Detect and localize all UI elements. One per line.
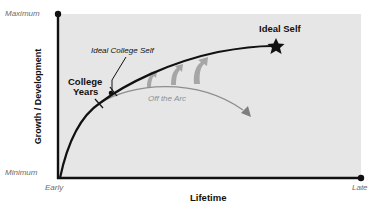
growth-diagram: Maximum Minimum Growth / Development Ear… <box>0 0 380 214</box>
x-axis-end-dot <box>358 175 364 181</box>
y-axis-end-dot <box>55 11 61 17</box>
y-max-label: Maximum <box>5 10 40 18</box>
diagram-canvas <box>0 0 380 214</box>
y-axis-title: Growth / Development <box>34 42 43 152</box>
ideal-self-label: Ideal Self <box>259 24 301 34</box>
off-the-arc-label: Off the Arc <box>148 95 186 103</box>
y-min-label: Minimum <box>5 169 37 177</box>
plot-panel <box>58 14 361 178</box>
x-axis-title: Lifetime <box>190 193 226 203</box>
ideal-college-self-label: Ideal College Self <box>91 47 154 55</box>
x-start-label: Early <box>45 184 63 192</box>
college-years-label-line2: Years <box>73 87 98 97</box>
ideal-college-self-point <box>109 91 114 96</box>
x-end-label: Late <box>352 184 368 192</box>
